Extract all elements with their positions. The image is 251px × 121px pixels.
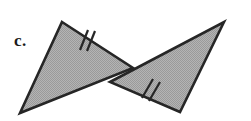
geometry-figure-container: c.: [0, 0, 251, 121]
bowtie-triangles-diagram: [0, 0, 251, 121]
part-label-c: c.: [14, 32, 27, 49]
left-triangle: [20, 22, 133, 113]
